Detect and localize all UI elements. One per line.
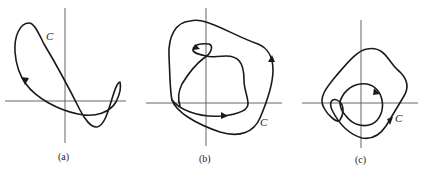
panel-a-curve-label: C bbox=[46, 30, 54, 42]
panel-c-caption: (c) bbox=[355, 154, 366, 166]
panel-b-curve-label: C bbox=[260, 116, 268, 128]
panel-b: C (b) bbox=[146, 8, 282, 165]
panel-a: C (a) bbox=[5, 8, 126, 163]
panel-b-curve-inner bbox=[172, 44, 248, 117]
panel-b-arrow-right bbox=[268, 55, 275, 62]
panel-c-curve-label: C bbox=[395, 112, 403, 124]
panel-b-curve-outer bbox=[169, 20, 273, 134]
panel-b-arrow-bottom bbox=[221, 112, 228, 119]
panel-a-direction-arrow bbox=[21, 77, 29, 85]
figure-canvas: C (a) C (b) C (c) bbox=[0, 0, 422, 171]
panel-b-caption: (b) bbox=[199, 153, 211, 165]
panel-a-caption: (a) bbox=[58, 151, 69, 163]
panel-a-curve bbox=[15, 23, 120, 127]
panel-c: C (c) bbox=[302, 20, 418, 166]
